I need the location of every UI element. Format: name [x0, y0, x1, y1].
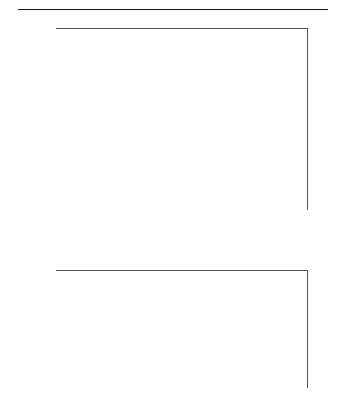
figure-divider-rule: [18, 9, 328, 10]
chart-papillary-thyroid-cancer: [0, 234, 346, 402]
plot-area-incidence: [56, 28, 308, 210]
series-lines-incidence: [56, 28, 308, 210]
chart-incidence-by-tumor-size: [0, 0, 346, 234]
plot-area-papillary: [56, 270, 308, 388]
series-lines-papillary: [56, 270, 308, 388]
figure-root: [0, 0, 346, 402]
